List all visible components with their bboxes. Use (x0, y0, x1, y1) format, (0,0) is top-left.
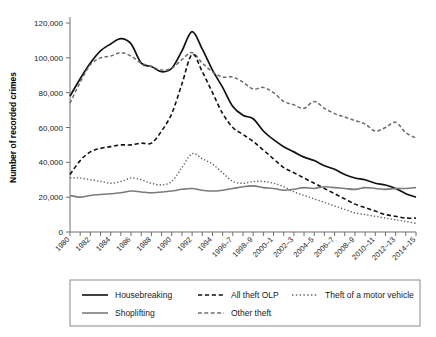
y-tick-label: 60,000 (39, 124, 64, 133)
x-tick-label: 2004–5 (292, 235, 316, 259)
crime-statistics-line-chart: 020,00040,00060,00080,000100,000120,000N… (0, 0, 436, 337)
x-tick-label: 2000–1 (251, 235, 275, 259)
x-tick-label: 1990 (155, 235, 173, 253)
x-tick-label: 1998–9 (231, 235, 255, 259)
series-line-all-theft-olp (70, 54, 416, 218)
x-axis-ticks (70, 232, 416, 236)
x-tick-label: 1984 (94, 235, 112, 253)
series-line-housebreaking (70, 32, 416, 197)
chart-canvas: 020,00040,00060,00080,000100,000120,000N… (0, 0, 436, 337)
y-tick-label: 100,000 (34, 54, 63, 63)
x-tick-label: 1986 (114, 235, 132, 253)
y-tick-label: 120,000 (34, 19, 63, 28)
series-line-shoplifting (70, 186, 416, 197)
y-tick-label: 40,000 (39, 158, 64, 167)
legend: HousebreakingAll theft OLPTheft of a mot… (70, 280, 420, 326)
legend-label-other-theft: Other theft (231, 308, 272, 318)
x-tick-label: 2006–7 (312, 235, 336, 259)
x-tick-label: 1992 (175, 235, 193, 253)
y-tick-label: 80,000 (39, 89, 64, 98)
series-line-other-theft (70, 53, 416, 138)
legend-label-all-theft-olp: All theft OLP (231, 290, 279, 300)
x-tick-label: 1988 (135, 235, 153, 253)
legend-label-shoplifting: Shoplifting (115, 308, 155, 318)
x-tick-label: 1980 (53, 235, 71, 253)
y-axis-ticks: 020,00040,00060,00080,000100,000120,000 (34, 19, 70, 237)
x-tick-label: 2002–3 (271, 235, 295, 259)
legend-label-theft-of-a-motor-vehicle: Theft of a motor vehicle (325, 290, 414, 300)
x-tick-label: 1996–7 (210, 235, 234, 259)
y-axis-title: Number of recorded crimes (8, 72, 18, 183)
x-axis-labels: 198019821984198619881990199219941996–719… (53, 235, 417, 262)
axes-group (70, 17, 416, 232)
x-tick-label: 1982 (74, 235, 92, 253)
y-tick-label: 0 (59, 228, 64, 237)
y-tick-label: 20,000 (39, 193, 64, 202)
legend-label-housebreaking: Housebreaking (115, 290, 172, 300)
series-group (70, 32, 416, 224)
legend-box (70, 280, 420, 326)
